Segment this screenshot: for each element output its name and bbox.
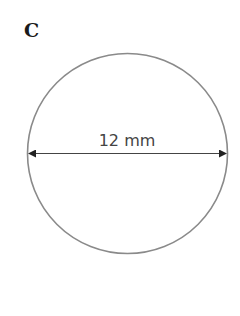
- diameter-label: 12 mm: [99, 131, 156, 150]
- circle-diagram: 12 mm: [0, 0, 240, 316]
